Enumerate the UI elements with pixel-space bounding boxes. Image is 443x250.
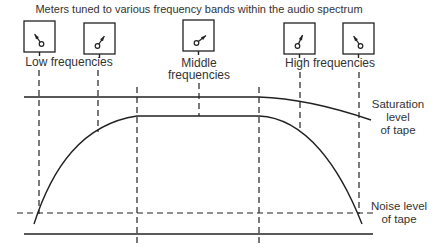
noise-annotation-line1: Noise level xyxy=(371,200,427,212)
meter-box xyxy=(343,23,374,54)
label-low-frequencies: Low frequencies xyxy=(25,55,112,69)
meter xyxy=(24,21,55,56)
saturation-annotation-line2: level xyxy=(386,111,410,123)
label-middle-frequencies-line2: frequencies xyxy=(168,68,230,82)
meter-box xyxy=(183,20,214,51)
diagram-title: Meters tuned to various frequency bands … xyxy=(35,3,362,15)
saturation-annotation-line3: of tape xyxy=(380,124,415,136)
response-curve xyxy=(34,116,362,224)
noise-annotation-line2: of tape xyxy=(381,213,416,225)
meter-box xyxy=(24,21,55,52)
meter-box xyxy=(84,23,115,54)
meter xyxy=(343,23,374,58)
label-high-frequencies: High frequencies xyxy=(285,56,375,70)
meter xyxy=(284,23,315,58)
tape-frequency-response-diagram: Meters tuned to various frequency bands … xyxy=(0,0,443,250)
meter xyxy=(183,20,214,55)
meters-group xyxy=(24,20,374,58)
saturation-annotation-line1: Saturation xyxy=(372,98,424,110)
meter xyxy=(84,23,115,58)
